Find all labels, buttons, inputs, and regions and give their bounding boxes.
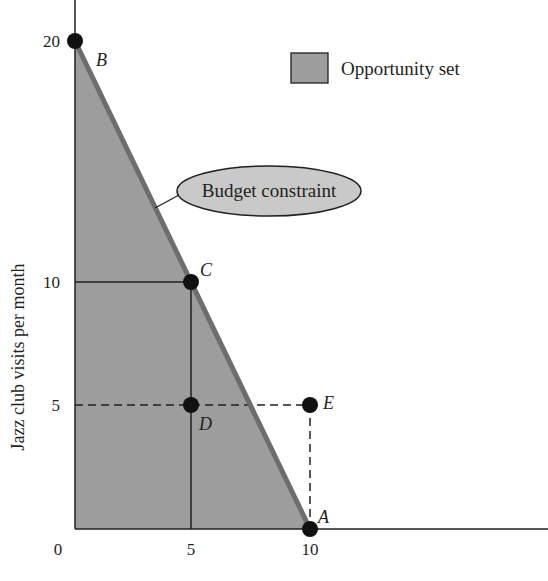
point-e-marker xyxy=(302,397,318,413)
x-tick-5: 5 xyxy=(187,540,196,559)
point-b-label: B xyxy=(96,50,107,70)
y-tick-10: 10 xyxy=(43,273,60,292)
legend-label: Opportunity set xyxy=(341,58,460,79)
point-e-label: E xyxy=(322,393,334,413)
point-a-label: A xyxy=(317,507,330,527)
y-tick-20: 20 xyxy=(43,32,60,51)
x-tick-0: 0 xyxy=(54,540,63,559)
point-d-label: D xyxy=(198,414,212,434)
point-c-label: C xyxy=(200,260,213,280)
point-a-marker xyxy=(302,521,318,537)
callout-connector xyxy=(155,195,179,208)
budget-constraint-chart: Budget constraint Opportunity set B C D … xyxy=(0,0,548,581)
x-tick-10: 10 xyxy=(302,540,319,559)
callout-label: Budget constraint xyxy=(202,180,337,201)
legend-swatch xyxy=(291,53,328,83)
point-b-marker xyxy=(67,33,83,49)
y-axis-title: Jazz club visits per month xyxy=(8,264,28,451)
y-tick-5: 5 xyxy=(52,396,61,415)
point-c-marker xyxy=(183,274,199,290)
point-d-marker xyxy=(183,397,199,413)
